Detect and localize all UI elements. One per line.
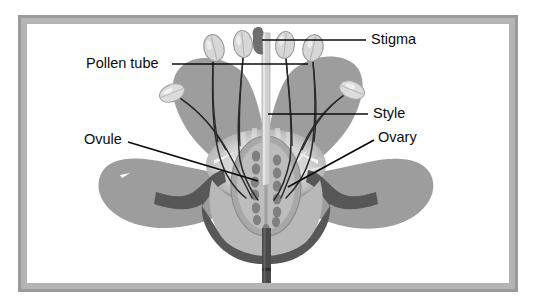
ovule [273, 167, 281, 178]
label-stigma: Stigma [371, 31, 417, 47]
ovule [252, 150, 260, 161]
stigma-head [253, 27, 264, 39]
ovule [272, 217, 280, 227]
style-group [262, 33, 270, 185]
ovule [252, 163, 260, 174]
label-ovule: Ovule [84, 131, 122, 147]
label-style: Style [373, 105, 405, 121]
stem-pedicel [262, 228, 271, 292]
ovule [253, 215, 261, 225]
stem-group [262, 228, 271, 292]
stem-node-band [262, 268, 271, 271]
ovule [273, 206, 281, 217]
ovule [252, 202, 260, 213]
stem-highlight [264, 228, 266, 292]
ovule [251, 176, 259, 187]
label-ovary: Ovary [378, 129, 417, 145]
ovule [273, 154, 281, 165]
flower-diagram-svg: Stigma Pollen tube Style Ovule Ovary [0, 0, 541, 306]
diagram-root: Stigma Pollen tube Style Ovule Ovary [0, 0, 541, 306]
label-pollen-tube: Pollen tube [86, 55, 159, 71]
style-highlight [263, 33, 265, 185]
